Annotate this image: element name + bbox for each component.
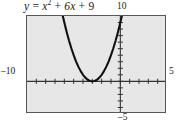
x-axis-max-label: 5 [169, 66, 174, 76]
plot-area [26, 15, 166, 113]
equation-plus-1: + [55, 0, 62, 12]
parabola-curve [62, 16, 122, 81]
equation-term1-exponent: 2 [47, 0, 51, 7]
equation-label: y = x2 + 6x + 9 [24, 0, 94, 12]
equation-plus-2: + [79, 0, 86, 12]
equation-term3: 9 [88, 0, 94, 12]
axes-group [27, 16, 166, 113]
equation-lhs: y [24, 0, 29, 12]
y-axis-min-label: –5 [118, 112, 128, 122]
equation-term2: 6x [64, 0, 75, 12]
x-axis-min-label: –10 [1, 66, 15, 76]
plot-svg [27, 16, 166, 113]
graph-figure: y = x2 + 6x + 9 10 –10 5 –5 [0, 0, 179, 131]
y-axis-max-label: 10 [117, 1, 127, 11]
equation-equals: = [32, 0, 39, 12]
